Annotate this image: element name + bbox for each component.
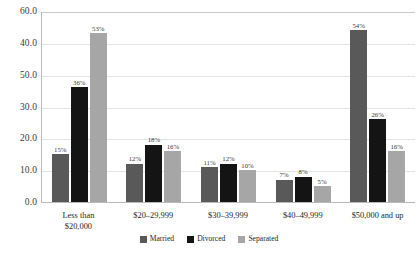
y-axis: 60.040.050.030.020.010.00.0: [0, 12, 37, 203]
bar-group: 11%12%10%: [191, 12, 266, 202]
bar-value-label: 26%: [371, 111, 383, 118]
bar-slot: 8%: [295, 12, 312, 202]
y-axis-tick-label: 0.0: [0, 198, 37, 208]
legend-label: Separated: [248, 235, 278, 243]
bar-value-label: 11%: [203, 159, 215, 166]
bar[interactable]: [239, 170, 256, 202]
bar-slot: 26%: [369, 12, 386, 202]
y-axis-tick-label: 40.0: [0, 39, 37, 49]
legend-swatch-icon: [140, 236, 147, 243]
bar-value-label: 36%: [73, 79, 85, 86]
bar-slot: 53%: [90, 12, 107, 202]
bar[interactable]: [220, 164, 237, 202]
bar[interactable]: [145, 145, 162, 202]
bar-group: 15%36%53%: [42, 12, 117, 202]
y-axis-tick-label: 20.0: [0, 135, 37, 145]
bar-value-label: 12%: [129, 155, 141, 162]
bar-group: 7%8%5%: [266, 12, 341, 202]
bar[interactable]: [388, 151, 405, 202]
bar-value-label: 5%: [318, 178, 327, 185]
chart-legend: MarriedDivorcedSeparated: [0, 235, 418, 243]
bar-slot: 12%: [220, 12, 237, 202]
bar[interactable]: [295, 177, 312, 203]
y-axis-tick-label: 60.0: [0, 7, 37, 17]
legend-label: Married: [150, 235, 174, 243]
bar-value-label: 8%: [299, 168, 308, 175]
bar-slot: 10%: [239, 12, 256, 202]
legend-item[interactable]: Divorced: [187, 235, 225, 243]
bar-value-label: 7%: [280, 171, 289, 178]
bar[interactable]: [314, 186, 331, 202]
bar-slot: 36%: [71, 12, 88, 202]
bar-group: 12%18%16%: [117, 12, 192, 202]
legend-item[interactable]: Married: [140, 235, 174, 243]
bar-value-label: 12%: [222, 155, 234, 162]
bar[interactable]: [71, 87, 88, 202]
bar[interactable]: [201, 167, 218, 202]
bar[interactable]: [369, 119, 386, 202]
bar-value-label: 54%: [352, 22, 364, 29]
legend-swatch-icon: [238, 236, 245, 243]
bar-slot: 54%: [350, 12, 367, 202]
bar-groups: 15%36%53%12%18%16%11%12%10%7%8%5%54%26%1…: [42, 12, 415, 202]
bar[interactable]: [276, 180, 293, 202]
bar-slot: 5%: [314, 12, 331, 202]
bar-slot: 12%: [126, 12, 143, 202]
bar-value-label: 16%: [390, 143, 402, 150]
plot-area: 15%36%53%12%18%16%11%12%10%7%8%5%54%26%1…: [41, 12, 415, 203]
bar-slot: 18%: [145, 12, 162, 202]
bar-value-label: 10%: [241, 162, 253, 169]
bar-value-label: 18%: [148, 136, 160, 143]
bar-slot: 16%: [164, 12, 181, 202]
bar-value-label: 16%: [167, 143, 179, 150]
bar[interactable]: [126, 164, 143, 202]
bar-slot: 11%: [201, 12, 218, 202]
bar[interactable]: [52, 154, 69, 202]
bar-slot: 16%: [388, 12, 405, 202]
bar-value-label: 53%: [92, 25, 104, 32]
legend-item[interactable]: Separated: [238, 235, 278, 243]
bar[interactable]: [350, 30, 367, 202]
legend-swatch-icon: [187, 236, 194, 243]
bar-slot: 7%: [276, 12, 293, 202]
bar[interactable]: [164, 151, 181, 202]
bar-slot: 15%: [52, 12, 69, 202]
y-axis-tick-label: 10.0: [0, 166, 37, 176]
bar-value-label: 15%: [54, 146, 66, 153]
bar-group: 54%26%16%: [340, 12, 415, 202]
bar[interactable]: [90, 33, 107, 202]
bar-chart: 60.040.050.030.020.010.00.0 15%36%53%12%…: [0, 0, 418, 255]
y-axis-tick-label: 50.0: [0, 71, 37, 81]
y-axis-tick-label: 30.0: [0, 103, 37, 113]
legend-label: Divorced: [197, 235, 225, 243]
